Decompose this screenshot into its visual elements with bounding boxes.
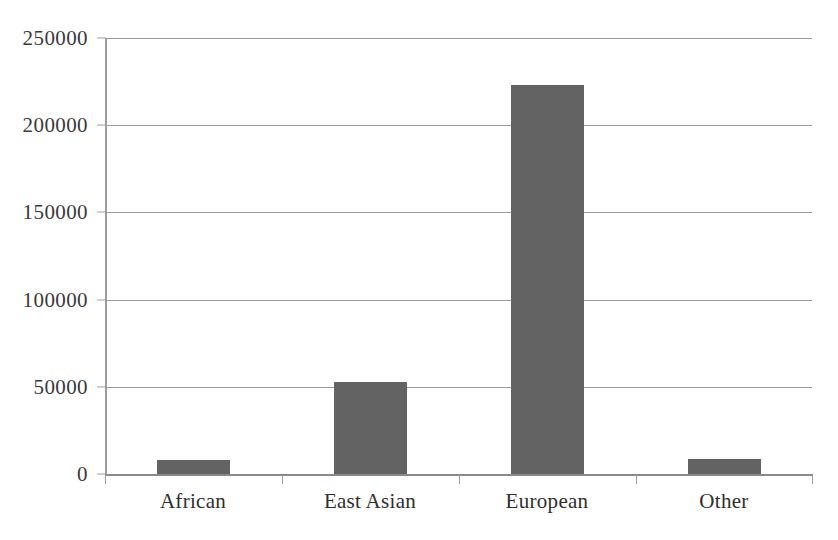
y-tick-label-200000: 200000: [0, 115, 88, 136]
bars-layer: [105, 38, 812, 474]
y-tick-label-100000: 100000: [0, 290, 88, 311]
bar-other[interactable]: [688, 459, 761, 474]
x-tick-mark-3: [636, 475, 637, 484]
x-tick-mark-2: [459, 475, 460, 484]
x-tick-label-european: European: [506, 489, 589, 514]
bar-chart: 250000 200000 150000 100000 50000 0 Afri…: [0, 0, 838, 540]
x-tick-label-african: African: [160, 489, 226, 514]
y-tick-label-150000: 150000: [0, 202, 88, 223]
y-tick-label-250000: 250000: [0, 28, 88, 49]
bar-east-asian[interactable]: [334, 382, 407, 474]
x-tick-mark-0: [105, 475, 106, 484]
x-tick-label-east-asian: East Asian: [324, 489, 416, 514]
y-tick-label-0: 0: [0, 464, 88, 485]
bar-european[interactable]: [511, 85, 584, 474]
x-tick-mark-4: [812, 475, 813, 484]
y-axis-labels: 250000 200000 150000 100000 50000 0: [0, 0, 88, 540]
x-tick-label-other: Other: [699, 489, 748, 514]
y-tick-label-50000: 50000: [0, 377, 88, 398]
bar-african[interactable]: [157, 460, 230, 474]
x-axis-labels: African East Asian European Other: [105, 489, 812, 529]
x-tick-mark-1: [282, 475, 283, 484]
